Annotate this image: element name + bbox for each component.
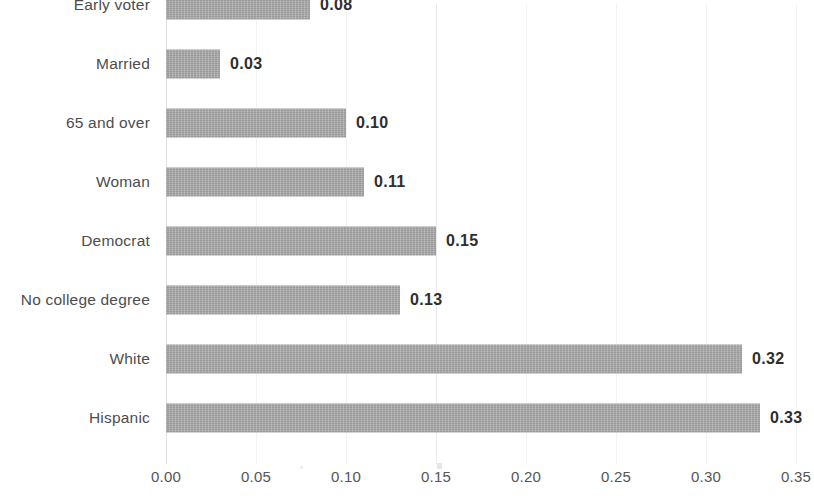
bar: [166, 226, 436, 255]
x-axis: 0.000.050.100.150.200.250.300.35: [166, 468, 796, 498]
bar-row: Hispanic0.33: [166, 388, 796, 447]
x-tick-label: 0.15: [421, 468, 451, 485]
bar-value-label: 0.32: [752, 350, 784, 368]
category-label: Married: [96, 55, 150, 73]
x-tick-label: 0.10: [331, 468, 361, 485]
bar: [166, 167, 364, 196]
category-label: White: [109, 350, 150, 368]
bar: [166, 403, 760, 432]
bar-value-label: 0.33: [770, 409, 802, 427]
x-tick-label: 0.35: [781, 468, 811, 485]
category-label: Early voter: [74, 0, 150, 14]
x-tick-label: 0.30: [691, 468, 721, 485]
bar-value-label: 0.13: [410, 291, 442, 309]
bar-row: No college degree0.13: [166, 270, 796, 329]
category-label: Hispanic: [89, 409, 150, 427]
x-tick-label: 0.20: [511, 468, 541, 485]
category-label: Woman: [96, 173, 150, 191]
x-tick-label: 0.05: [241, 468, 271, 485]
plot-area: Early voter0.08Married0.0365 and over0.1…: [166, 0, 796, 466]
x-tick-label: 0.25: [601, 468, 631, 485]
bar-chart: Early voter0.08Married0.0365 and over0.1…: [0, 0, 814, 502]
category-label: Democrat: [81, 232, 150, 250]
bar-row: Married0.03: [166, 34, 796, 93]
bar-value-label: 0.11: [374, 173, 405, 191]
bar-row: Democrat0.15: [166, 211, 796, 270]
gridline: [796, 4, 797, 464]
bar: [166, 108, 346, 137]
category-label: 65 and over: [66, 114, 150, 132]
bar-row: Woman0.11: [166, 152, 796, 211]
bar-value-label: 0.15: [446, 232, 478, 250]
bar: [166, 0, 310, 19]
bar-value-label: 0.10: [356, 114, 388, 132]
bar: [166, 344, 742, 373]
bar-row: Early voter0.08: [166, 0, 796, 34]
bar-row: White0.32: [166, 329, 796, 388]
bar: [166, 49, 220, 78]
x-tick-label: 0.00: [151, 468, 181, 485]
bar: [166, 285, 400, 314]
bar-row: 65 and over0.10: [166, 93, 796, 152]
category-label: No college degree: [21, 291, 150, 309]
bar-value-label: 0.08: [320, 0, 352, 14]
bar-value-label: 0.03: [230, 55, 262, 73]
